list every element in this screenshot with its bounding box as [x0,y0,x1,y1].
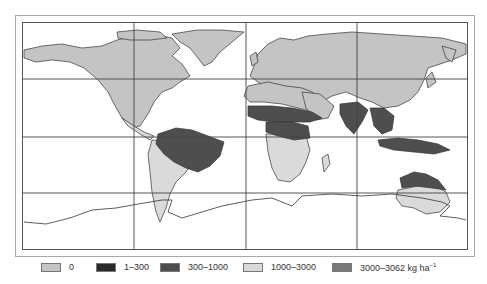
region-arctic-islands [117,30,167,40]
region-greenland [172,30,244,66]
legend-label-0: 0 [69,262,74,272]
legend-swatch-1-300 [96,263,116,272]
legend-item-3000-3062: 3000–3062 kg ha−1 [332,259,436,275]
region-japan [426,72,436,88]
legend-item-0: 0 [41,259,74,275]
legend-swatch-1000-3000 [243,263,263,272]
legend-swatch-300-1000 [160,263,180,272]
region-north-america [24,34,190,128]
legend-label-300-1000: 300–1000 [188,262,228,272]
legend-swatch-3000-3062 [332,263,352,272]
legend-label-1-300: 1–300 [124,262,149,272]
region-se-asia [370,108,394,134]
legend-item-1-300: 1–300 [96,259,149,275]
legend-item-1000-3000: 1000–3000 [243,259,316,275]
legend-swatch-0 [41,263,61,272]
region-indonesia [378,138,450,154]
region-australia-south [396,186,450,214]
region-madagascar [322,154,330,172]
legend-label-1000-3000: 1000–3000 [271,262,316,272]
legend-label-3000-3062: 3000–3062 kg ha−1 [360,262,436,273]
region-india [340,102,368,134]
legend-item-300-1000: 300–1000 [160,259,228,275]
region-southern-africa [266,134,310,182]
legend: 0 1–300 300–1000 1000–3000 3000–3062 kg … [0,259,487,275]
world-map [22,22,468,250]
